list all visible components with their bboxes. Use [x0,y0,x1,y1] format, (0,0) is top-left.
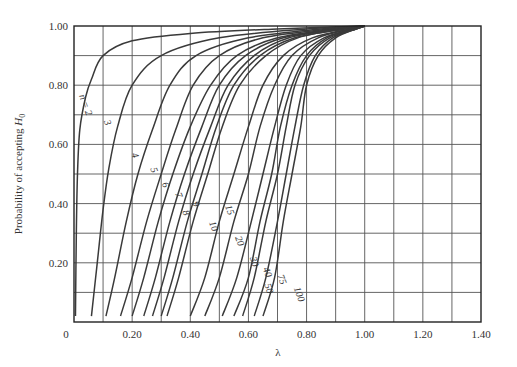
y-axis-label: Probability of accepting H0 [12,114,27,234]
oc-curve [222,26,364,316]
y-axis-label-main: Probability of accepting [12,126,24,234]
x-tick-label: 0.80 [297,328,317,340]
y-tick-label: 0.20 [49,257,69,269]
x-axis-ticks: 00.200.400.600.801.001.201.40 [63,328,491,340]
x-tick-label: 1.40 [471,328,491,340]
y-axis-label-sub: 0 [18,114,27,118]
oc-curve-chart: n = 2345678910152030405075100 00.200.400… [0,0,517,367]
x-tick-label: 1.00 [355,328,375,340]
oc-curves [75,26,364,316]
curve-label: 10 [207,220,221,233]
curve-label: 100 [292,285,307,303]
x-tick-label: 0 [63,328,69,340]
x-tick-label: 1.20 [413,328,433,340]
x-axis-label: λ [275,346,281,358]
y-axis-ticks: 0.200.400.600.801.00 [49,20,69,269]
y-tick-label: 1.00 [49,20,69,32]
y-tick-label: 0.80 [49,79,69,91]
y-tick-label: 0.60 [49,138,69,150]
y-tick-label: 0.40 [49,198,69,210]
x-tick-label: 0.20 [123,328,143,340]
x-tick-label: 0.60 [239,328,259,340]
curve-label: 15 [223,203,237,216]
oc-curve [234,26,365,316]
oc-curve [144,26,365,316]
curve-label: 40 [261,265,275,278]
x-tick-label: 0.40 [181,328,201,340]
